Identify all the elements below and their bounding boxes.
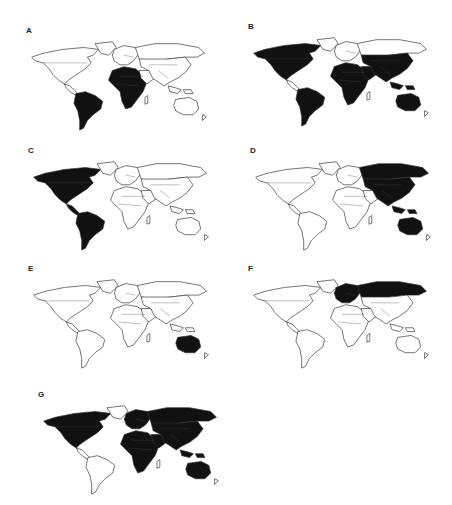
world-map bbox=[24, 156, 220, 252]
panel-e: E bbox=[24, 264, 224, 374]
panel-d: D bbox=[246, 146, 446, 256]
panel-label-a: A bbox=[26, 26, 32, 35]
panel-label-f: F bbox=[248, 264, 253, 273]
world-map bbox=[22, 36, 218, 132]
world-map bbox=[244, 274, 440, 370]
panel-b: B bbox=[244, 22, 444, 132]
panel-label-c: C bbox=[28, 146, 34, 155]
world-map bbox=[24, 274, 220, 370]
world-map bbox=[34, 400, 230, 496]
panel-a: A bbox=[22, 26, 222, 136]
panel-label-e: E bbox=[28, 264, 33, 273]
panel-label-d: D bbox=[250, 146, 256, 155]
panel-f: F bbox=[244, 264, 444, 374]
panel-label-g: G bbox=[38, 390, 44, 399]
panel-label-b: B bbox=[248, 22, 254, 31]
panel-c: C bbox=[24, 146, 224, 256]
world-map bbox=[244, 32, 440, 128]
world-map bbox=[246, 156, 442, 252]
panel-g: G bbox=[34, 390, 234, 500]
